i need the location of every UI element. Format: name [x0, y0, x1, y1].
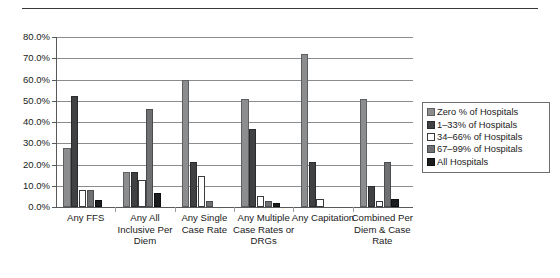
legend-item[interactable]: Zero % of Hospitals: [427, 106, 545, 118]
bar: [146, 109, 153, 207]
legend-item[interactable]: 34–66% of Hospitals: [427, 131, 545, 143]
y-tick-label: 80.0%: [6, 32, 50, 42]
bar: [391, 199, 398, 208]
legend-swatch-icon: [427, 145, 435, 153]
legend-item[interactable]: 1–33% of Hospitals: [427, 118, 545, 130]
y-tick-label: 40.0%: [6, 117, 50, 127]
category-label: Any All Inclusive Per Diem: [113, 212, 176, 247]
bar: [376, 201, 383, 207]
bars-layer: [56, 37, 412, 207]
bar: [190, 162, 197, 207]
legend-label: 67–99% of Hospitals: [437, 144, 522, 154]
legend-swatch-icon: [427, 158, 435, 166]
legend-item[interactable]: All Hospitals: [427, 156, 545, 168]
legend-label: Zero % of Hospitals: [437, 107, 518, 117]
bar: [123, 172, 130, 207]
category-label: Any FFS: [54, 212, 117, 224]
bar: [206, 201, 213, 207]
y-tick-label: 20.0%: [6, 160, 50, 170]
y-tick-label: 0.0%: [6, 202, 50, 212]
legend-item[interactable]: 67–99% of Hospitals: [427, 143, 545, 155]
bar: [154, 193, 161, 207]
legend-swatch-icon: [427, 121, 435, 129]
bar: [198, 176, 205, 207]
category-label: Combined Per Diem & Case Rate: [351, 212, 414, 247]
bar: [241, 99, 248, 207]
bar: [138, 180, 145, 207]
bar: [265, 201, 272, 207]
y-tick-label: 70.0%: [6, 53, 50, 63]
bar: [316, 199, 323, 207]
bar: [182, 80, 189, 208]
y-tick-label: 50.0%: [6, 96, 50, 106]
bar: [273, 203, 280, 207]
bar: [131, 172, 138, 207]
legend-label: 1–33% of Hospitals: [437, 120, 517, 130]
bar: [79, 190, 86, 207]
bar: [309, 162, 316, 207]
bar: [368, 186, 375, 207]
legend-label: 34–66% of Hospitals: [437, 132, 522, 142]
bar: [63, 148, 70, 207]
legend-label: All Hospitals: [437, 157, 488, 167]
bar: [249, 129, 256, 207]
category-label: Any Capitation: [291, 212, 354, 224]
bar: [257, 196, 264, 207]
legend-swatch-icon: [427, 108, 435, 116]
bar: [384, 162, 391, 207]
chart-figure: 0.0%10.0%20.0%30.0%40.0%50.0%60.0%70.0%8…: [0, 0, 560, 278]
legend-swatch-icon: [427, 133, 435, 141]
bar: [95, 200, 102, 207]
bar: [360, 99, 367, 207]
chart-legend: Zero % of Hospitals1–33% of Hospitals34–…: [422, 102, 550, 173]
bar: [71, 96, 78, 207]
bar: [301, 54, 308, 207]
y-tick-label: 10.0%: [6, 181, 50, 191]
y-tick-label: 30.0%: [6, 138, 50, 148]
bar: [87, 190, 94, 207]
category-label: Any Multiple Case Rates or DRGs: [232, 212, 295, 247]
category-label: Any Single Case Rate: [173, 212, 236, 235]
y-tick-label: 60.0%: [6, 75, 50, 85]
